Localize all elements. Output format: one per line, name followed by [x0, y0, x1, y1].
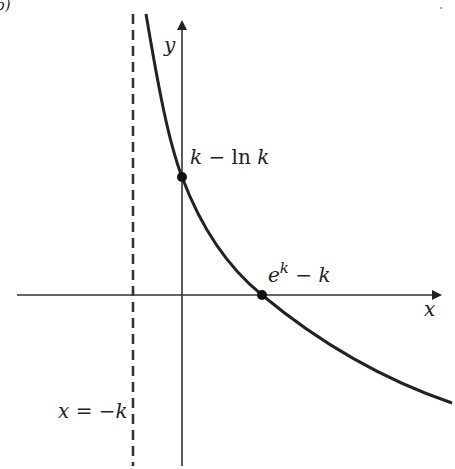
y-axis-label: y: [163, 33, 176, 57]
scan-speck: [440, 7, 442, 9]
x-intercept-point: [257, 290, 267, 300]
y-intercept-point: [177, 172, 187, 182]
asymptote-label: x = −k: [58, 399, 128, 423]
x-intercept-label: ek − k: [268, 259, 331, 287]
graph-figure: b) y x k − ln k ek − k x = −k: [0, 0, 455, 469]
y-intercept-label: k − ln k: [190, 145, 269, 169]
x-axis-label: x: [424, 297, 435, 321]
curve: [146, 14, 452, 403]
panel-label: b): [0, 0, 10, 13]
